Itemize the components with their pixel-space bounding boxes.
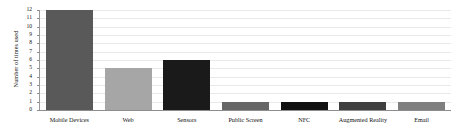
y-axis-tick-label: 5 (29, 66, 32, 72)
bar (339, 102, 386, 110)
y-axis-tick-label: 6 (29, 57, 32, 63)
x-axis-tick-label: Web (99, 117, 158, 124)
x-axis-tick-label: Sensors (157, 117, 216, 124)
y-axis-tick-label: 12 (26, 7, 32, 13)
y-axis-tick-label: 0 (29, 107, 32, 113)
bar (163, 60, 210, 110)
bar-chart: Number of times used 0123456789101112 Mo… (0, 0, 455, 138)
bar (46, 10, 93, 110)
y-axis-tick-label: 10 (26, 24, 32, 30)
bar-series (40, 10, 451, 110)
x-axis-line (40, 110, 451, 111)
y-axis-tick-label: 9 (29, 32, 32, 38)
plot-area: 0123456789101112 (40, 10, 451, 110)
bar (281, 102, 328, 110)
x-axis-tick-labels: Mobile DevicesWebSensorsPublic ScreenNFC… (40, 113, 451, 133)
y-axis-tick-label: 7 (29, 49, 32, 55)
y-axis-tick-label: 3 (29, 82, 32, 88)
x-axis-tick-label: NFC (275, 117, 334, 124)
bar (222, 102, 269, 110)
bar (398, 102, 445, 110)
y-axis-tick-label: 1 (29, 99, 32, 105)
x-axis-tick-label: Augmented Reality (334, 117, 393, 124)
y-axis-title: Number of times used (9, 7, 23, 111)
x-axis-tick-label: Mobile Devices (40, 117, 99, 124)
y-axis-tick-label: 2 (29, 91, 32, 97)
y-axis-tick-label: 11 (27, 16, 32, 22)
x-axis-tick-label: Public Screen (216, 117, 275, 124)
x-axis-tick-label: Email (392, 117, 451, 124)
y-axis-tick-label: 8 (29, 41, 32, 47)
y-axis-tick-label: 4 (29, 74, 32, 80)
y-axis-line (39, 10, 40, 110)
bar (105, 68, 152, 110)
